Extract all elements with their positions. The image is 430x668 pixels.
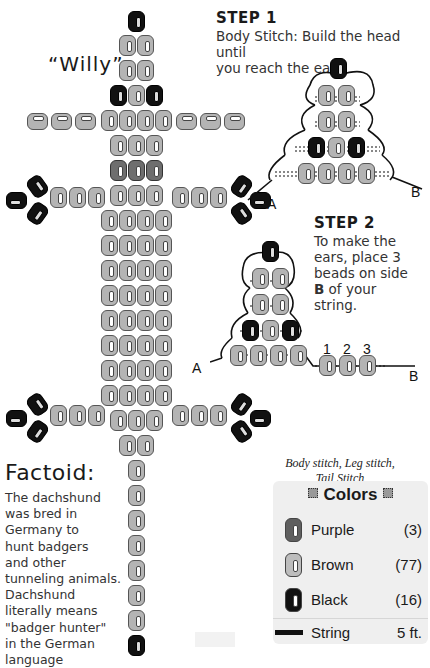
- string-end-a-label: A: [192, 360, 201, 376]
- bead-black-paw: [25, 200, 51, 227]
- bead-brown: [137, 360, 154, 381]
- bead-black: [262, 241, 279, 262]
- bead-brown: [250, 345, 267, 366]
- bead-brown-tail: [128, 585, 145, 606]
- bead-brown-leg: [50, 405, 67, 426]
- bead-brown: [119, 235, 136, 256]
- string-label: String: [311, 624, 350, 641]
- bead-brown: [262, 320, 279, 341]
- bead-brown-leg: [50, 187, 67, 208]
- bead-brown: [137, 285, 154, 306]
- bead-brown-tail: [128, 460, 145, 481]
- bead-brown: [119, 310, 136, 331]
- color-name: Brown: [311, 556, 354, 573]
- bead-brown: [298, 163, 315, 184]
- bead-brown: [128, 410, 145, 431]
- string-end-b-label: B: [411, 184, 420, 200]
- bead-brown: [230, 345, 247, 366]
- decorative-faded-image: [195, 632, 235, 647]
- color-count: (77): [395, 556, 422, 573]
- bead-brown: [155, 110, 172, 131]
- black-bead-swatch-icon: [285, 588, 302, 612]
- caption-line: Body stitch, Leg stitch,: [280, 456, 400, 471]
- string-path-icon: [230, 55, 430, 215]
- bead-brown-ear: [176, 113, 197, 130]
- bead-black-paw: [25, 418, 51, 445]
- bead-brown-leg: [191, 405, 208, 426]
- bead-brown: [101, 335, 118, 356]
- bead-brown: [318, 111, 335, 132]
- bead-brown: [137, 210, 154, 231]
- dotted-square-icon: [308, 488, 318, 498]
- bead-brown: [119, 60, 136, 81]
- bead-brown: [101, 385, 118, 406]
- bead-brown-leg: [69, 405, 86, 426]
- bead-brown-tail: [128, 560, 145, 581]
- bead-brown: [128, 85, 145, 106]
- bead-brown: [146, 410, 163, 431]
- bead-brown: [110, 410, 127, 431]
- bead-brown: [338, 111, 355, 132]
- bead-brown: [318, 163, 335, 184]
- step2-diagram: [210, 238, 430, 368]
- brown-bead-swatch-icon: [285, 553, 302, 577]
- color-name: Purple: [311, 521, 354, 538]
- bead-brown: [110, 135, 127, 156]
- colors-panel-title: Colors: [273, 485, 428, 505]
- bead-brown-tail: [128, 610, 145, 631]
- step1-diagram: [230, 55, 430, 215]
- color-name: Black: [311, 591, 348, 608]
- bead-black-tail-tip: [128, 635, 145, 656]
- bead-black-eye: [110, 85, 127, 106]
- colors-title-text: Colors: [324, 485, 378, 504]
- bead-brown: [137, 260, 154, 281]
- bead-black: [308, 137, 325, 158]
- bead-brown: [146, 135, 163, 156]
- factoid-line: "badger hunter": [5, 620, 125, 636]
- ear-bead-number-1: 1: [323, 341, 331, 357]
- colors-panel: Colors Purple (3) Brown (77) Black (16) …: [273, 481, 428, 644]
- bead-brown: [137, 60, 154, 81]
- factoid-line: hunt badgers: [5, 539, 125, 555]
- bead-brown: [119, 385, 136, 406]
- bead-brown-leg: [210, 187, 227, 208]
- bead-black: [128, 11, 145, 32]
- bead-brown: [119, 285, 136, 306]
- bead-brown: [272, 294, 289, 315]
- bead-brown: [137, 35, 154, 56]
- bead-brown: [128, 185, 145, 206]
- factoid-line: in the German: [5, 636, 125, 652]
- bead-brown: [101, 260, 118, 281]
- factoid-line: Germany to: [5, 522, 125, 538]
- bead-brown: [155, 260, 172, 281]
- bead-brown: [252, 294, 269, 315]
- bead-brown-ear: [200, 113, 221, 130]
- bead-brown: [137, 310, 154, 331]
- bead-brown-leg: [210, 405, 227, 426]
- factoid-line: The dachshund: [5, 490, 125, 506]
- bead-black-paw: [6, 410, 27, 427]
- bead-brown: [137, 435, 154, 456]
- bead-brown: [119, 110, 136, 131]
- bead-brown: [155, 360, 172, 381]
- bead-brown: [119, 35, 136, 56]
- bead-brown: [328, 137, 345, 158]
- bead-brown: [101, 310, 118, 331]
- bead-brown: [155, 335, 172, 356]
- bead-brown: [290, 345, 307, 366]
- bead-black: [242, 320, 259, 341]
- bead-brown: [119, 360, 136, 381]
- ear-bead-number-3: 3: [363, 341, 371, 357]
- bead-brown: [272, 268, 289, 289]
- color-row-purple: Purple (3): [273, 516, 428, 546]
- bead-black-paw: [250, 410, 271, 427]
- bead-black-paw: [25, 391, 51, 418]
- bead-brown-leg: [69, 187, 86, 208]
- bead-brown: [358, 163, 375, 184]
- factoid-heading: Factoid:: [5, 460, 95, 485]
- bead-brown-ear-3: [359, 355, 376, 376]
- ear-bead-number-2: 2: [343, 341, 351, 357]
- factoid-line: was bred in: [5, 506, 125, 522]
- bead-brown-ear-1: [319, 355, 336, 376]
- step2-heading: STEP 2: [314, 214, 375, 232]
